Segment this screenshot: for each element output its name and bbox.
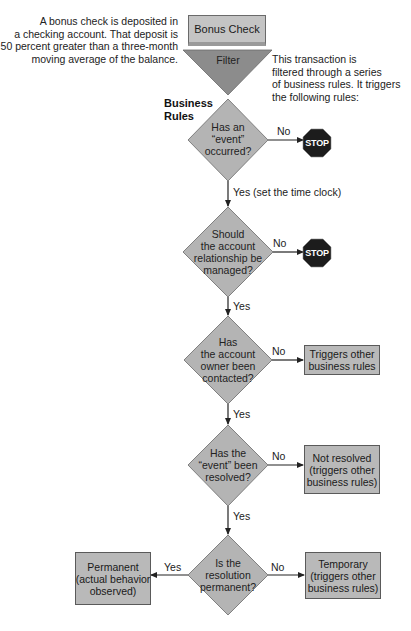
outcome-line: Not resolved (313, 452, 372, 464)
left-annotation-line: A bonus check is deposited in (1, 15, 178, 28)
outcome-line: (triggers other (310, 570, 375, 582)
decision-line: Has the (188, 447, 268, 459)
decision-text-resolution-permanent: Is the resolution permanent? (188, 557, 268, 593)
business-rules-title-line: Business (164, 97, 213, 110)
decision-text-relationship-managed: Should the account relationship be manag… (183, 228, 273, 276)
decision-line: “event” been (188, 459, 268, 471)
left-annotation-line: a checking account. That deposit is (1, 28, 178, 41)
outcome-line: Temporary (318, 558, 368, 570)
right-annotation: This transaction is filtered through a s… (272, 53, 400, 103)
edge-label-yes: Yes (233, 408, 250, 420)
decision-line: Should (183, 228, 273, 240)
decision-text-owner-contacted: Has the account owner been contacted? (184, 336, 272, 384)
edge-label-no: No (277, 125, 290, 137)
outcome-line: (actual behavior (76, 573, 151, 585)
decision-line: resolved? (188, 471, 268, 483)
decision-line: resolution (188, 569, 268, 581)
outcome-line: business rules) (308, 582, 379, 594)
outcome-box-not-resolved: Not resolved (triggers other business ru… (304, 445, 380, 494)
decision-line: Has an (188, 121, 268, 133)
filter-label-text: Filter (216, 54, 239, 66)
left-annotation-line: moving average of the balance. (1, 53, 178, 66)
outcome-line: observed) (90, 585, 137, 597)
decision-line: contacted? (184, 372, 272, 384)
outcome-line: (triggers other (309, 464, 374, 476)
left-annotation-line: 50 percent greater than a three-month (1, 40, 178, 53)
decision-text-event-resolved: Has the “event” been resolved? (188, 447, 268, 483)
outcome-box-temporary: Temporary (triggers other business rules… (305, 552, 381, 599)
decision-line: managed? (183, 264, 273, 276)
edge-label-no: No (272, 450, 285, 462)
right-annotation-line: filtered through a series (272, 66, 400, 79)
decision-text-event-occurred: Has an “event” occurred? (188, 121, 268, 157)
left-annotation: A bonus check is deposited in a checking… (1, 15, 178, 65)
edge-label-yes: Yes (233, 300, 250, 312)
right-annotation-line: This transaction is (272, 53, 400, 66)
right-annotation-line: of business rules. It triggers (272, 78, 400, 91)
outcome-line: business rules) (307, 476, 378, 488)
edge-label-yes: Yes (set the time clock) (233, 186, 341, 198)
edge-label-no: No (272, 345, 285, 357)
business-rules-title: Business Rules (164, 97, 213, 123)
filter-label: Filter (198, 54, 258, 66)
outcome-box-permanent: Permanent (actual behavior observed) (75, 552, 151, 605)
decision-line: Has (184, 336, 272, 348)
stop-sign-label: STOP (303, 248, 331, 258)
outcome-line: business rules (308, 360, 375, 372)
decision-line: the account (184, 348, 272, 360)
outcome-line: Permanent (87, 561, 138, 573)
edge-label-no: No (271, 561, 284, 573)
edge-label-yes: Yes (164, 561, 181, 573)
decision-line: relationship be (183, 252, 273, 264)
decision-line: permanent? (188, 581, 268, 593)
stop-sign-label: STOP (303, 138, 331, 148)
decision-line: owner been (184, 360, 272, 372)
decision-line: “event” (188, 133, 268, 145)
outcome-line: Triggers other (310, 348, 375, 360)
bonus-check-box: Bonus Check (188, 15, 266, 46)
bonus-check-label: Bonus Check (194, 23, 259, 35)
edge-label-no: No (273, 237, 286, 249)
decision-line: Is the (188, 557, 268, 569)
decision-line: occurred? (188, 145, 268, 157)
outcome-box-triggers-other-rules: Triggers other business rules (304, 345, 380, 375)
edge-label-yes: Yes (233, 510, 250, 522)
decision-line: the account (183, 240, 273, 252)
right-annotation-line: the following rules: (272, 91, 400, 104)
